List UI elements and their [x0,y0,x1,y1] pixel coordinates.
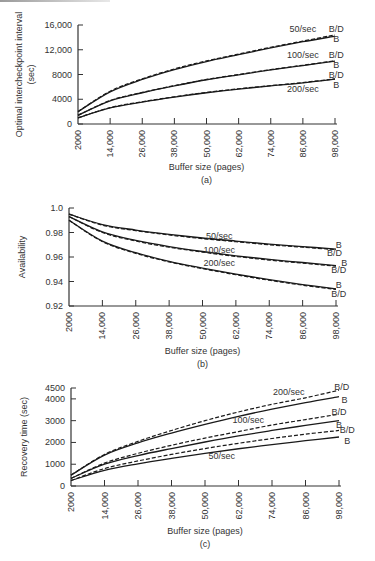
x-tick-label: 14,000 [97,312,107,340]
y-axis-title: Recovery time (sec) [19,397,29,477]
y-axis-title: Optimal intercheckpoint interval [14,12,24,138]
x-axis-title: Buffer size (pages) [169,162,244,172]
x-tick-label: 38,000 [167,492,177,520]
y-tick-label: 16,000 [44,20,72,30]
x-tick-label: 50,000 [200,492,210,520]
series-annotation: 100/sec [287,50,319,60]
x-tick-label: 86,000 [298,130,308,158]
x-tick-label: 26,000 [133,492,143,520]
y-tick-label: 1000 [45,459,65,469]
series-annotation: B/D [331,289,347,299]
series-annotation: 200/sec [273,387,305,397]
figure: 04000800012,00016,000200014,00026,00038,… [0,0,375,561]
series-annotation: B [333,80,339,90]
series-annotation: 50/sec [208,451,235,461]
y-tick-label: 0.92 [45,301,63,311]
series-annotation: B/D [329,24,345,34]
x-tick-label: 74,000 [267,492,277,520]
series-annotation: B/D [329,50,345,60]
x-tick-label: 98,000 [331,312,341,340]
x-tick-label: 62,000 [231,312,241,340]
series-annotation: B/D [331,407,347,417]
series-annotation: B/D [329,70,345,80]
x-tick-label: 2000 [66,492,76,512]
series-line [71,397,339,475]
y-tick-label: 2000 [45,437,65,447]
series-annotation: 100/sec [203,245,235,255]
series-line [71,421,339,479]
x-tick-label: 50,000 [202,130,212,158]
series-line [78,35,335,112]
panel-caption: (a) [201,175,212,185]
x-tick-label: 98,000 [330,130,340,158]
x-tick-label: 86,000 [298,312,308,340]
series-annotation: B [342,395,348,405]
series-line [69,220,336,289]
y-tick-label: 3000 [45,416,65,426]
x-tick-label: 62,000 [234,492,244,520]
y-tick-label: 0 [60,481,65,491]
x-tick-label: 14,000 [105,130,115,158]
x-tick-label: 50,000 [198,312,208,340]
y-tick-label: 4000 [45,394,65,404]
x-tick-label: 98,000 [334,492,344,520]
chart-panel-a: 04000800012,00016,000200014,00026,00038,… [14,12,344,185]
series-annotation: B [344,436,350,446]
series-annotation: B [333,60,339,70]
y-tick-label: 0.98 [45,228,63,238]
y-tick-label: 4000 [52,94,72,104]
x-tick-label: 2000 [64,312,74,332]
x-tick-label: 14,000 [100,492,110,520]
series-annotation: 100/sec [233,415,265,425]
y-tick-label: 12,000 [44,45,72,55]
x-tick-label: 86,000 [301,492,311,520]
y-axis-title-unit: (sec) [26,64,36,84]
series-annotation: 50/sec [290,24,317,34]
series-annotation: 200/sec [203,258,235,268]
y-tick-label: 8000 [52,70,72,80]
panel-caption: (b) [197,359,208,369]
y-tick-label: 1.0 [50,203,63,213]
y-tick-label: 4500 [45,383,65,393]
x-tick-label: 2000 [73,130,83,150]
y-axis-title: Availability [17,235,27,278]
series-annotation: B/D [334,382,350,392]
x-tick-label: 74,000 [266,130,276,158]
x-tick-label: 74,000 [264,312,274,340]
series-line [71,437,339,481]
series-annotation: 50/sec [206,231,233,241]
panel-caption: (c) [200,539,211,549]
x-axis-title: Buffer size (pages) [165,346,240,356]
chart-panel-b: 0.920.940.960.981.0200014,00026,00038,00… [17,203,347,369]
y-tick-label: 0.96 [45,252,63,262]
series-annotation: B [333,34,339,44]
chart-panel-c: 010002000300040004500200014,00026,00038,… [19,382,355,549]
series-line [78,36,335,111]
y-tick-label: 0.94 [45,277,63,287]
series-annotation: B/D [340,425,356,435]
series-annotation: 200/sec [287,84,319,94]
x-tick-label: 38,000 [169,130,179,158]
series-annotation: B/D [327,248,343,258]
x-tick-label: 38,000 [164,312,174,340]
x-tick-label: 26,000 [137,130,147,158]
x-axis-title: Buffer size (pages) [167,526,242,536]
x-tick-label: 26,000 [131,312,141,340]
y-tick-label: 0 [67,119,72,129]
x-tick-label: 62,000 [234,130,244,158]
series-annotation: B/D [331,265,347,275]
